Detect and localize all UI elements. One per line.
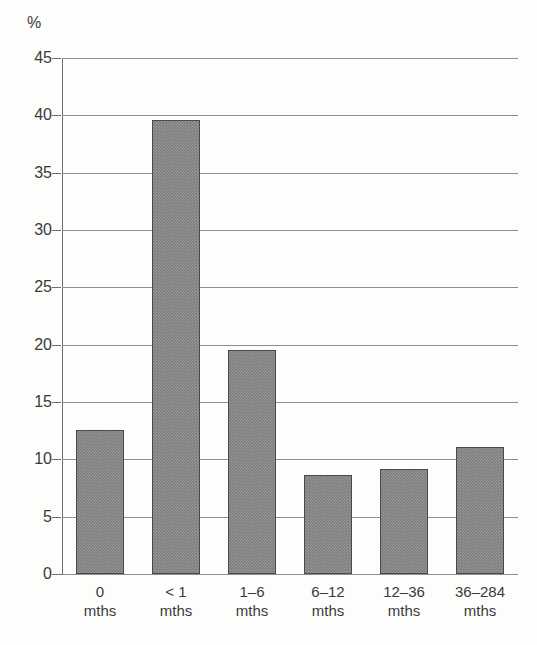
gridline [62,230,518,231]
y-axis-tick [52,58,61,59]
gridline [62,58,518,59]
category-label-line1: 6–12 [290,582,366,601]
category-label-line2: mths [214,601,290,620]
plot-area [62,58,518,574]
y-axis-tick-label: 35 [8,165,52,181]
gridline [62,115,518,116]
x-axis-category-label: 12–36mths [366,582,442,620]
y-axis-tick-label: 15 [8,394,52,410]
y-axis-tick [52,345,61,346]
category-label-line1: 1–6 [214,582,290,601]
y-axis-tick-label: 20 [8,337,52,353]
x-axis-category-label: 1–6mths [214,582,290,620]
bar [228,350,276,574]
y-axis-tick [52,574,61,575]
gridline [62,345,518,346]
bar [76,430,124,574]
x-axis-category-label: < 1mths [138,582,214,620]
bar [152,120,200,574]
gridline [62,287,518,288]
bar [380,469,428,574]
gridline [62,459,518,460]
gridline [62,402,518,403]
y-axis-tick-label: 5 [8,509,52,525]
category-label-line1: 0 [62,582,138,601]
y-axis-tick-label: 40 [8,107,52,123]
x-axis-category-label: 36–284mths [442,582,518,620]
gridline [62,173,518,174]
category-label-line2: mths [138,601,214,620]
y-axis-tick [52,459,61,460]
gridline [62,517,518,518]
y-axis-tick-label: 45 [8,50,52,66]
category-label-line2: mths [290,601,366,620]
y-axis-tick-label: 25 [8,279,52,295]
y-axis-tick [52,173,61,174]
x-axis-category-label: 6–12mths [290,582,366,620]
y-axis-tick [52,115,61,116]
y-axis-tick [52,287,61,288]
category-label-line2: mths [366,601,442,620]
gridline [62,574,518,575]
y-axis-tick [52,402,61,403]
bar-chart: % 454035302520151050 0mths< 1mths1–6mths… [0,0,537,645]
y-axis-tick-label: 30 [8,222,52,238]
y-axis-tick [52,517,61,518]
y-axis-unit-label: % [27,14,41,32]
category-label-line2: mths [62,601,138,620]
y-axis-tick-label: 10 [8,451,52,467]
category-label-line1: 36–284 [442,582,518,601]
category-label-line1: 12–36 [366,582,442,601]
category-label-line1: < 1 [138,582,214,601]
category-label-line2: mths [442,601,518,620]
bar [304,475,352,574]
y-axis-tick [52,230,61,231]
bar [456,447,504,574]
y-axis-tick-label: 0 [8,566,52,582]
x-axis-category-label: 0mths [62,582,138,620]
